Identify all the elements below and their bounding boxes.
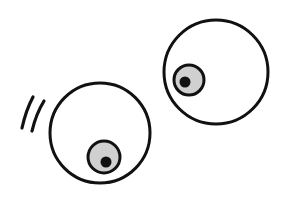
- left-eye: [50, 83, 150, 183]
- eyeballs-illustration: [0, 0, 287, 202]
- right-pupil: [180, 77, 191, 88]
- right-eye: [164, 20, 268, 124]
- left-pupil: [101, 157, 112, 168]
